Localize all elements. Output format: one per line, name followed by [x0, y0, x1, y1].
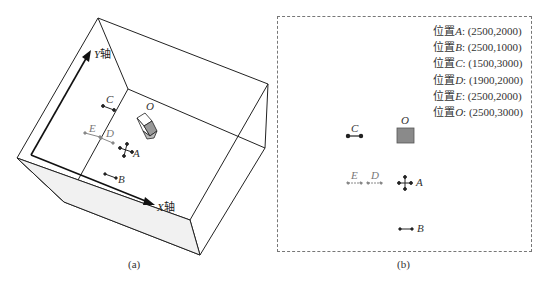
- label-o-2d: O: [401, 114, 409, 126]
- label-e-3d: E: [89, 122, 96, 134]
- caption-b: (b): [397, 258, 410, 270]
- label-a-3d: A: [133, 147, 140, 159]
- panel-b-plan: 位置A: (2500,2000) 位置B: (2500,1000) 位置C: (…: [277, 16, 532, 252]
- label-o-3d: O: [146, 100, 154, 112]
- caption-a: (a): [128, 258, 140, 270]
- label-c-2d: C: [351, 122, 358, 134]
- marker-b-3d: [104, 173, 117, 179]
- legend-row-a: 位置A: (2500,2000): [433, 23, 523, 39]
- label-b-2d: B: [417, 222, 424, 234]
- label-a-2d: A: [416, 176, 423, 188]
- legend-row-d: 位置D: (1900,2000): [433, 72, 523, 88]
- label-d-2d: D: [371, 169, 379, 181]
- position-legend: 位置A: (2500,2000) 位置B: (2500,1000) 位置C: (…: [433, 23, 523, 120]
- label-b-3d: B: [118, 173, 125, 185]
- legend-row-o: 位置O: (2500,3000): [433, 104, 523, 120]
- y-axis-label: Y轴: [94, 45, 111, 61]
- label-c-3d: C: [106, 93, 113, 105]
- legend-row-b: 位置B: (2500,1000): [433, 39, 523, 55]
- marker-c-3d: [102, 105, 116, 112]
- label-e-2d: E: [351, 169, 358, 181]
- y-axis-arrow: [31, 50, 91, 155]
- x-axis-label: X轴: [157, 198, 175, 214]
- marker-a-3d: [119, 143, 134, 158]
- source-o-3d: [137, 113, 157, 139]
- legend-row-c: 位置C: (1500,3000): [433, 55, 523, 71]
- label-d-3d: D: [106, 127, 114, 139]
- legend-row-e: 位置E: (2500,2000): [433, 88, 523, 104]
